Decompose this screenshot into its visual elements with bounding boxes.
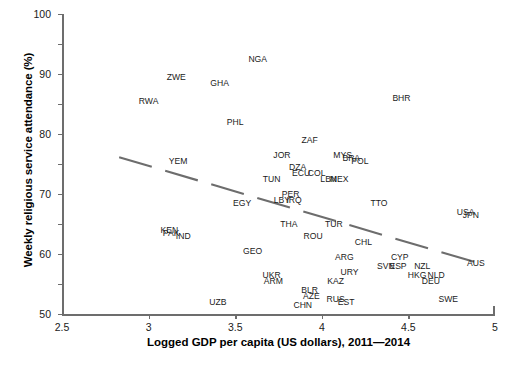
data-point-label: GHA bbox=[210, 79, 229, 88]
x-tick-label: 4.5 bbox=[401, 321, 416, 333]
x-tick-label: 3 bbox=[146, 321, 152, 333]
y-axis-title: Weekly religious service attendance (%) bbox=[16, 0, 40, 320]
data-point-label: NGA bbox=[248, 55, 267, 64]
data-point-label: THA bbox=[280, 220, 297, 229]
y-tick-mark: 20 bbox=[58, 254, 62, 255]
data-point-label: SWE bbox=[438, 295, 458, 304]
y-tick-mark: 50 bbox=[58, 164, 62, 165]
data-point-label: ARM bbox=[264, 277, 283, 286]
y-tick-mark: 60 bbox=[58, 134, 62, 135]
data-point-label: DEU bbox=[422, 277, 440, 286]
data-point-label: TTO bbox=[370, 199, 387, 208]
y-tick-mark: 90 bbox=[58, 44, 62, 45]
data-point-label: AUS bbox=[467, 259, 485, 268]
plot-area: 0102030405060708090100 2.533.544.55 NGAZ… bbox=[62, 14, 495, 314]
data-point-label: GEO bbox=[243, 247, 262, 256]
data-point-label: ROU bbox=[304, 232, 323, 241]
data-point-label: TUR bbox=[325, 220, 343, 229]
x-tick-label: 3.5 bbox=[228, 321, 243, 333]
data-point-label: ARG bbox=[335, 253, 354, 262]
data-point-label: IRQ bbox=[286, 196, 301, 205]
y-tick-mark: 30 bbox=[58, 224, 62, 225]
x-tick-mark bbox=[408, 314, 409, 319]
data-point-label: POL bbox=[351, 157, 368, 166]
data-point-label: PHL bbox=[227, 118, 244, 127]
y-tick-mark: 0 bbox=[58, 314, 62, 315]
scatter-plot-figure: Weekly religious service attendance (%) … bbox=[0, 0, 518, 367]
data-point-label: ESP bbox=[389, 262, 406, 271]
data-point-label: RWA bbox=[139, 97, 159, 106]
data-point-label: EST bbox=[338, 298, 355, 307]
y-tick-label: 60 bbox=[39, 248, 51, 260]
data-point-label: CHL bbox=[355, 238, 372, 247]
data-point-label: UZB bbox=[209, 298, 226, 307]
y-tick-mark: 80 bbox=[58, 74, 62, 75]
x-tick-label: 2.5 bbox=[55, 321, 70, 333]
data-point-label: YEM bbox=[169, 157, 188, 166]
data-point-label: JOR bbox=[273, 151, 290, 160]
y-tick-mark: 100 bbox=[58, 14, 62, 15]
x-axis-right-cap bbox=[493, 306, 495, 314]
x-axis-line bbox=[62, 314, 495, 316]
x-tick-label: 4 bbox=[319, 321, 325, 333]
y-tick-label: 70 bbox=[39, 188, 51, 200]
data-point-label: BHR bbox=[392, 94, 410, 103]
y-tick-label: 90 bbox=[39, 68, 51, 80]
data-point-label: ZWE bbox=[167, 73, 186, 82]
x-tick-mark bbox=[322, 314, 323, 319]
x-tick-label: 5 bbox=[492, 321, 498, 333]
x-tick-mark bbox=[235, 314, 236, 319]
x-tick-mark bbox=[149, 314, 150, 319]
data-point-label: ZAF bbox=[302, 136, 318, 145]
data-point-label: KAZ bbox=[327, 277, 344, 286]
data-point-label: MEX bbox=[330, 175, 349, 184]
data-point-label: JPN bbox=[463, 211, 479, 220]
y-tick-mark: 70 bbox=[58, 104, 62, 105]
data-point-label: TUN bbox=[263, 175, 281, 184]
y-tick-mark: 40 bbox=[58, 194, 62, 195]
data-point-label: EGY bbox=[233, 199, 251, 208]
data-point-label: IND bbox=[176, 232, 191, 241]
y-tick-label: 80 bbox=[39, 128, 51, 140]
data-point-label: CHN bbox=[293, 301, 312, 310]
y-tick-label: 50 bbox=[39, 308, 51, 320]
x-axis-title: Logged GDP per capita (US dollars), 2011… bbox=[62, 336, 495, 348]
y-axis-line bbox=[62, 14, 64, 314]
y-tick-mark: 10 bbox=[58, 284, 62, 285]
y-tick-label: 100 bbox=[33, 8, 51, 20]
